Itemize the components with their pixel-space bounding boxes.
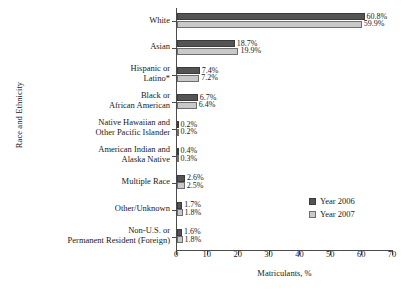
x-tick-label: 0 <box>161 249 191 259</box>
y-tick <box>172 75 176 76</box>
category-label: Hispanic orLatino* <box>131 64 170 84</box>
x-tick-label: 10 <box>192 249 222 259</box>
y-tick <box>172 183 176 184</box>
bar-year-2007 <box>177 21 362 28</box>
bar-year-2006 <box>177 94 198 101</box>
legend: Year 2006 Year 2007 <box>309 196 355 222</box>
bar-year-2006 <box>177 13 365 20</box>
y-tick <box>172 129 176 130</box>
bar-year-2006 <box>177 148 179 155</box>
bar-value-label: 19.9% <box>240 47 261 55</box>
bar-value-label: 1.8% <box>185 209 202 217</box>
category-label: American Indian andAlaska Native <box>98 145 170 165</box>
bar-year-2006 <box>177 202 182 209</box>
plot-area: 60.8%59.9%18.7%19.9%7.4%7.2%6.7%6.4%0.2%… <box>176 8 392 250</box>
bar-year-2007 <box>177 236 183 243</box>
bar-chart: Race and Ethnicity WhiteAsianHispanic or… <box>0 0 416 299</box>
bar-year-2006 <box>177 229 182 236</box>
bar-year-2007 <box>177 48 238 55</box>
y-tick <box>172 210 176 211</box>
y-tick <box>172 102 176 103</box>
legend-item-year-2007[interactable]: Year 2007 <box>309 209 355 219</box>
bar-value-label: 59.9% <box>364 20 385 28</box>
bar-year-2007 <box>177 209 183 216</box>
bar-year-2006 <box>177 121 179 128</box>
bar-year-2006 <box>177 67 200 74</box>
category-label: Black orAfrican American <box>109 91 170 111</box>
x-tick-label: 30 <box>254 249 284 259</box>
bar-value-label: 0.3% <box>181 155 198 163</box>
y-tick <box>172 156 176 157</box>
bar-value-label: 7.2% <box>201 74 218 82</box>
bar-year-2007 <box>177 129 179 136</box>
y-tick <box>172 48 176 49</box>
bar-year-2007 <box>177 155 179 162</box>
category-label-column: WhiteAsianHispanic orLatino*Black orAfri… <box>0 0 176 299</box>
y-tick <box>172 21 176 22</box>
bar-year-2007 <box>177 75 199 82</box>
category-label: Native Hawaiian andOther Pacific Islande… <box>95 118 170 138</box>
bar-value-label: 0.2% <box>181 128 198 136</box>
category-label: Non-U.S. orPermanent Resident (Foreign) <box>68 226 170 246</box>
x-tick-label: 40 <box>284 249 314 259</box>
y-tick <box>172 237 176 238</box>
x-tick-label: 70 <box>377 249 407 259</box>
bar-year-2006 <box>177 40 235 47</box>
bar-year-2006 <box>177 175 185 182</box>
category-label: Other/Unknown <box>115 204 170 214</box>
category-label: Multiple Race <box>122 177 170 187</box>
x-axis-title: Matriculants, % <box>176 268 393 278</box>
legend-swatch-icon <box>309 198 316 205</box>
category-label: Asian <box>150 42 170 52</box>
x-tick-label: 60 <box>346 249 376 259</box>
legend-item-year-2006[interactable]: Year 2006 <box>309 196 355 206</box>
bar-year-2007 <box>177 102 197 109</box>
x-tick-label: 20 <box>223 249 253 259</box>
bar-value-label: 6.4% <box>199 101 216 109</box>
legend-label: Year 2007 <box>320 209 355 219</box>
bar-year-2007 <box>177 182 185 189</box>
legend-swatch-icon <box>309 211 316 218</box>
legend-label: Year 2006 <box>320 196 355 206</box>
category-label: White <box>149 16 170 26</box>
bar-value-label: 1.8% <box>185 236 202 244</box>
bar-value-label: 2.5% <box>187 182 204 190</box>
x-tick-label: 50 <box>315 249 345 259</box>
